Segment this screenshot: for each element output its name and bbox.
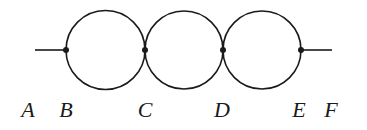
node-point-c [142, 47, 148, 53]
label-f: F [323, 97, 338, 122]
circle-2 [145, 11, 223, 89]
label-d: D [213, 97, 230, 122]
node-point-e [298, 47, 304, 53]
label-c: C [138, 97, 153, 122]
label-b: B [59, 97, 72, 122]
label-e: E [291, 97, 306, 122]
label-a: A [19, 97, 35, 122]
circle-1 [66, 11, 145, 90]
circuit-diagram: A B C D E F [0, 0, 367, 130]
circle-3 [223, 11, 301, 89]
node-point-d [220, 47, 226, 53]
node-point-b [63, 47, 69, 53]
